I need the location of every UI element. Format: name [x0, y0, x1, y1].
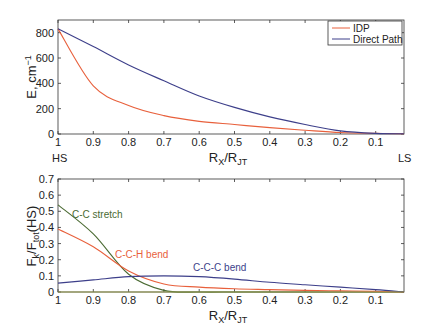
- x-tick-label: 0.3: [297, 136, 312, 148]
- hs-label: HS: [52, 152, 67, 164]
- x-tick-label: 0.6: [192, 136, 207, 148]
- bottom-plot: 10.90.80.70.60.50.40.30.20.1 00.10.20.30…: [24, 173, 404, 325]
- x-tick-label: 0.4: [262, 294, 277, 306]
- legend-direct-label: Direct Path: [353, 34, 402, 45]
- x-tick-label: 0.5: [227, 294, 242, 306]
- top-x-axis-label: RX/RJT: [209, 150, 248, 167]
- x-tick-label: 0.2: [333, 294, 348, 306]
- y-tick-label: 0.7: [39, 173, 54, 185]
- x-tick-label: 0.8: [121, 294, 136, 306]
- top-plot: 10.90.80.70.60.50.40.30.20.1 02004006008…: [23, 20, 411, 167]
- x-tick-label: 0.4: [262, 136, 277, 148]
- y-tick-label: 0: [48, 286, 54, 298]
- x-tick-label: 1: [55, 136, 61, 148]
- legend: IDP Direct Path: [328, 21, 402, 45]
- legend-idp-label: IDP: [353, 23, 370, 34]
- figure: 10.90.80.70.60.50.40.30.20.1 02004006008…: [0, 0, 426, 336]
- series-c-c-c-bend: [58, 276, 404, 292]
- series-c-c-h-bend: [58, 229, 404, 292]
- x-tick-label: 0.7: [156, 136, 171, 148]
- ccc-bend-label: C-C-C bend: [193, 262, 246, 273]
- y-tick-label: 0.6: [39, 189, 54, 201]
- x-tick-label: 0.9: [86, 136, 101, 148]
- y-tick-label: 600: [36, 52, 54, 64]
- y-tick-label: 0.1: [39, 270, 54, 282]
- y-tick-label: 0.4: [39, 221, 54, 233]
- ls-label: LS: [398, 152, 411, 164]
- x-tick-label: 0.1: [368, 136, 383, 148]
- x-tick-label: 0.3: [297, 294, 312, 306]
- y-tick-label: 0.5: [39, 205, 54, 217]
- bottom-y-ticks: 00.10.20.30.40.50.60.7: [39, 173, 404, 298]
- bottom-plot-frame: [58, 179, 404, 292]
- x-tick-label: 0.1: [368, 294, 383, 306]
- x-tick-label: 0.6: [192, 294, 207, 306]
- x-tick-label: 0.8: [121, 136, 136, 148]
- cc-stretch-label: C-C stretch: [72, 209, 123, 220]
- x-tick-label: 0.9: [86, 294, 101, 306]
- bottom-y-axis-label: Fk/Ftot(HS): [24, 206, 41, 267]
- y-tick-label: 800: [36, 27, 54, 39]
- bottom-x-axis-label: RX/RJT: [209, 308, 248, 325]
- y-tick-label: 200: [36, 103, 54, 115]
- y-tick-label: 0: [48, 128, 54, 140]
- x-tick-label: 0.2: [333, 136, 348, 148]
- x-tick-label: 0.5: [227, 136, 242, 148]
- x-tick-label: 0.7: [156, 294, 171, 306]
- x-tick-label: 1: [55, 294, 61, 306]
- cch-bend-label: C-C-H bend: [115, 249, 168, 260]
